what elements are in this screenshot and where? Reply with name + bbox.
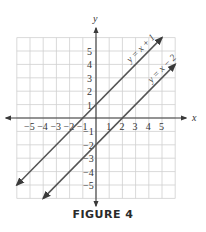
svg-text:−1: −1 <box>83 126 94 137</box>
svg-text:5: 5 <box>87 46 92 57</box>
svg-text:4: 4 <box>146 121 151 132</box>
svg-text:3: 3 <box>87 73 92 84</box>
svg-text:−5: −5 <box>83 180 94 191</box>
axes: xy <box>6 13 197 206</box>
svg-text:−3: −3 <box>83 153 94 164</box>
svg-text:5: 5 <box>159 121 164 132</box>
coordinate-plane-figure: xy −5−4−3−2−11234554321−1−2−3−4−5 y = x … <box>0 0 206 232</box>
svg-text:−3: −3 <box>50 121 61 132</box>
svg-text:−4: −4 <box>83 167 94 178</box>
svg-text:2: 2 <box>119 121 124 132</box>
svg-text:2: 2 <box>87 86 92 97</box>
svg-text:4: 4 <box>87 59 92 70</box>
svg-text:−5: −5 <box>24 121 35 132</box>
svg-text:x: x <box>191 112 197 123</box>
svg-text:−2: −2 <box>64 121 75 132</box>
figure-caption: FIGURE 4 <box>0 208 206 221</box>
line-labels: y = x + 1y = x − 2 <box>124 32 178 85</box>
svg-text:−4: −4 <box>37 121 48 132</box>
svg-text:y: y <box>92 13 98 24</box>
svg-text:3: 3 <box>133 121 138 132</box>
